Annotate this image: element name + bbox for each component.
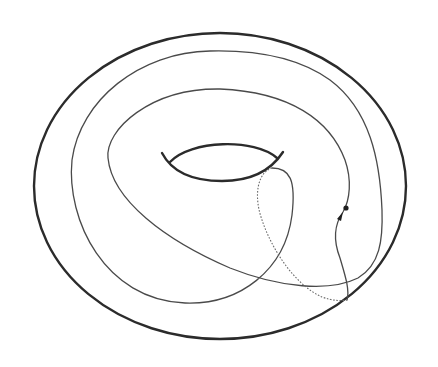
torus-figure — [0, 0, 438, 367]
torus-outline — [34, 33, 406, 339]
curve-on-torus — [71, 51, 382, 303]
direction-arrow — [337, 212, 343, 221]
torus-diagram — [0, 0, 438, 367]
marked-point — [343, 205, 348, 210]
torus-hole-upper-arc — [170, 144, 277, 162]
torus-hole-lower-arc — [162, 152, 283, 181]
